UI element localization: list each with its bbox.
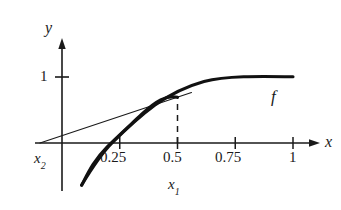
curve-label-f: f [271, 88, 276, 105]
point-label-x1-base: x [168, 176, 175, 192]
point-label-x2-subscript: 2 [41, 160, 46, 171]
point-label-x1: x1 [168, 177, 180, 195]
x-tick-label-05: 0.5 [163, 150, 182, 165]
y-tick-label-1: 1 [40, 69, 48, 84]
x-tick-label-1: 1 [289, 150, 297, 165]
point-label-x1-subscript: 1 [175, 186, 180, 197]
x-tick-label-075: 0.75 [215, 150, 241, 165]
point-label-x2-base: x [34, 150, 41, 166]
x-tick-label-025: 0.25 [100, 150, 126, 165]
y-axis-label: y [45, 20, 52, 36]
point-label-x2: x2 [34, 151, 46, 169]
x-axis-label: x [325, 134, 332, 150]
